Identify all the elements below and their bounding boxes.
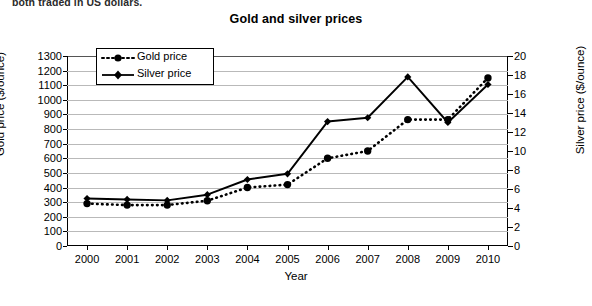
y-tick-label-left: 1000 bbox=[38, 94, 62, 106]
y-tick-label-right: 20 bbox=[514, 50, 526, 62]
y-tick-label-left: 700 bbox=[44, 138, 62, 150]
silver-price-swatch-icon bbox=[101, 66, 135, 83]
x-axis-label: Year bbox=[0, 270, 592, 282]
x-tick bbox=[167, 246, 168, 250]
legend-item-silver: Silver price bbox=[97, 66, 213, 83]
y-tick-label-right: 16 bbox=[514, 88, 526, 100]
y-tick-label-left: 1100 bbox=[38, 79, 62, 91]
y-tick-label-right: 14 bbox=[514, 107, 526, 119]
legend-label-gold: Gold price bbox=[137, 50, 187, 62]
data-point-marker bbox=[404, 116, 411, 123]
y-tick-right bbox=[508, 113, 513, 114]
x-tick bbox=[127, 246, 128, 250]
y-tick-label-left: 1300 bbox=[38, 50, 62, 62]
x-tick bbox=[87, 246, 88, 250]
x-tick-label: 2004 bbox=[235, 253, 259, 265]
y-tick-label-left: 800 bbox=[44, 123, 62, 135]
y-tick-right bbox=[508, 227, 513, 228]
gold-silver-prices-chart: Gold and silver prices Gold price ($/oun… bbox=[0, 0, 592, 306]
y-tick-label-right: 8 bbox=[514, 164, 520, 176]
y-tick-label-left: 400 bbox=[44, 182, 62, 194]
x-tick-label: 2003 bbox=[195, 253, 219, 265]
y-tick-right bbox=[508, 151, 513, 152]
y-tick-label-left: 200 bbox=[44, 211, 62, 223]
x-tick bbox=[488, 246, 489, 250]
y-axis-right-label: Silver price ($/ounce) bbox=[574, 46, 586, 155]
x-tick-label: 2007 bbox=[355, 253, 379, 265]
legend-item-gold: Gold price bbox=[97, 49, 213, 66]
x-tick bbox=[448, 246, 449, 250]
x-tick-label: 2002 bbox=[155, 253, 179, 265]
y-tick-right bbox=[508, 56, 513, 57]
y-tick-label-left: 1200 bbox=[38, 65, 62, 77]
y-tick-left bbox=[63, 246, 67, 247]
x-tick-label: 2008 bbox=[396, 253, 420, 265]
data-point-marker bbox=[244, 184, 251, 191]
legend-label-silver: Silver price bbox=[137, 67, 191, 79]
data-point-marker bbox=[204, 191, 211, 198]
y-tick-label-right: 2 bbox=[514, 221, 520, 233]
y-tick-right bbox=[508, 208, 513, 209]
y-tick-label-left: 0 bbox=[56, 240, 62, 252]
y-tick-label-left: 300 bbox=[44, 196, 62, 208]
y-tick-label-right: 0 bbox=[514, 240, 520, 252]
x-tick bbox=[247, 246, 248, 250]
y-tick-right bbox=[508, 94, 513, 95]
y-tick-right bbox=[508, 132, 513, 133]
y-tick-right bbox=[508, 75, 513, 76]
x-tick-label: 2009 bbox=[436, 253, 460, 265]
x-tick-label: 2001 bbox=[115, 253, 139, 265]
y-tick-right bbox=[508, 189, 513, 190]
chart-legend: Gold price Silver price bbox=[96, 48, 214, 85]
y-tick-label-right: 6 bbox=[514, 183, 520, 195]
y-tick-label-right: 18 bbox=[514, 69, 526, 81]
data-point-marker bbox=[484, 74, 491, 81]
y-tick-label-right: 10 bbox=[514, 145, 526, 157]
gold-price-swatch-icon bbox=[101, 49, 135, 66]
x-tick bbox=[207, 246, 208, 250]
data-point-marker bbox=[124, 196, 131, 203]
x-tick-label: 2010 bbox=[476, 253, 500, 265]
y-tick-label-right: 12 bbox=[514, 126, 526, 138]
y-tick-label-right: 4 bbox=[514, 202, 520, 214]
y-tick-label-left: 500 bbox=[44, 167, 62, 179]
x-tick-label: 2000 bbox=[75, 253, 99, 265]
x-tick bbox=[288, 246, 289, 250]
y-tick-right bbox=[508, 246, 513, 247]
data-point-marker bbox=[284, 181, 291, 188]
data-point-marker bbox=[324, 155, 331, 162]
y-tick-label-left: 600 bbox=[44, 152, 62, 164]
chart-title: Gold and silver prices bbox=[0, 12, 592, 26]
x-tick bbox=[328, 246, 329, 250]
y-tick-label-left: 100 bbox=[44, 225, 62, 237]
data-point-marker bbox=[244, 176, 251, 183]
x-tick bbox=[368, 246, 369, 250]
x-tick bbox=[408, 246, 409, 250]
x-tick-label: 2005 bbox=[275, 253, 299, 265]
y-axis-left-label: Gold price ($/ounce) bbox=[0, 52, 6, 156]
y-tick-label-left: 900 bbox=[44, 108, 62, 120]
y-tick-right bbox=[508, 170, 513, 171]
x-tick-label: 2006 bbox=[315, 253, 339, 265]
data-point-marker bbox=[364, 147, 371, 154]
